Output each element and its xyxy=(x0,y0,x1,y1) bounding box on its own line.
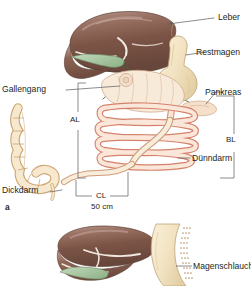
label-pancreas: Pankreas xyxy=(205,88,241,97)
label-common-limb: CL xyxy=(92,192,110,200)
label-common-limb-length: 50 cm xyxy=(82,203,122,211)
label-biliopancreatic-limb: BL xyxy=(226,136,236,144)
figure-container: Leber Restmagen Pankreas Gallengang Dick… xyxy=(0,0,251,286)
label-large-intestine: Dickdarm xyxy=(2,186,38,195)
staple-line xyxy=(180,227,193,279)
jejunojejunostomy xyxy=(64,164,132,182)
roux-limb-crossing xyxy=(132,120,170,164)
al-bracket xyxy=(78,83,86,178)
label-gastric-sleeve: Magenschlauch xyxy=(193,262,251,271)
label-bile-duct: Gallengang xyxy=(2,85,46,94)
anatomy-illustration xyxy=(0,0,251,286)
sleeve-gallbladder-shape xyxy=(60,267,108,279)
label-liver: Leber xyxy=(218,13,240,22)
label-gastric-pouch: Restmagen xyxy=(196,48,240,57)
label-small-intestine: Dünndarm xyxy=(192,154,232,163)
label-alimentary-limb: AL xyxy=(70,116,80,124)
gastric-sleeve-shape xyxy=(151,224,193,286)
panel-letter-a: a xyxy=(5,202,10,212)
